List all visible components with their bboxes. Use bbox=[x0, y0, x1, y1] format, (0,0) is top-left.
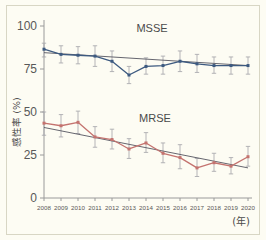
x-axis-unit-label: (年) bbox=[232, 215, 250, 227]
data-point[interactable] bbox=[196, 62, 199, 65]
data-point[interactable] bbox=[213, 161, 216, 164]
y-tick-label: 25 bbox=[24, 148, 38, 162]
data-point[interactable] bbox=[128, 74, 131, 77]
data-point[interactable] bbox=[247, 155, 250, 158]
data-point[interactable] bbox=[213, 64, 216, 67]
data-point[interactable] bbox=[145, 141, 148, 144]
data-point[interactable] bbox=[128, 147, 131, 150]
x-tick-label: 2009 bbox=[54, 204, 68, 211]
x-tick-label: 2017 bbox=[190, 204, 204, 211]
x-tick-label: 2016 bbox=[173, 204, 187, 211]
x-tick-label: 2015 bbox=[156, 204, 170, 211]
data-point[interactable] bbox=[230, 165, 233, 168]
data-point[interactable] bbox=[145, 65, 148, 68]
x-tick-label: 2008 bbox=[37, 204, 51, 211]
data-point[interactable] bbox=[247, 64, 250, 67]
y-axis-title: 感性率 (%) bbox=[11, 97, 22, 146]
data-point[interactable] bbox=[94, 55, 97, 58]
data-point[interactable] bbox=[162, 152, 165, 155]
data-point[interactable] bbox=[179, 60, 182, 63]
y-tick-label: 75 bbox=[24, 62, 38, 76]
data-point[interactable] bbox=[43, 122, 46, 125]
data-point[interactable] bbox=[179, 156, 182, 159]
y-tick-label: 100 bbox=[17, 19, 37, 33]
plot-area: 0255075100200820092010201120122013201420… bbox=[0, 0, 266, 240]
data-point[interactable] bbox=[111, 138, 114, 141]
x-tick-label: 2019 bbox=[224, 204, 238, 211]
data-point[interactable] bbox=[43, 48, 46, 51]
data-point[interactable] bbox=[111, 60, 114, 63]
y-tick-label: 50 bbox=[24, 105, 38, 119]
data-point[interactable] bbox=[230, 64, 233, 67]
y-tick-label: 0 bbox=[30, 191, 37, 205]
series-label-msse: MSSE bbox=[136, 22, 167, 34]
x-axis-ticks: 2008200920102011201220132014201520162017… bbox=[37, 198, 255, 211]
x-tick-label: 2018 bbox=[207, 204, 221, 211]
data-point[interactable] bbox=[162, 64, 165, 67]
data-point[interactable] bbox=[196, 166, 199, 169]
axes-group bbox=[44, 20, 252, 198]
x-tick-label: 2020 bbox=[241, 204, 255, 211]
x-tick-label: 2010 bbox=[71, 204, 85, 211]
data-point[interactable] bbox=[77, 54, 80, 57]
data-point[interactable] bbox=[77, 121, 80, 124]
data-point[interactable] bbox=[60, 53, 63, 56]
series-label-mrse: MRSE bbox=[139, 112, 171, 124]
x-tick-label: 2013 bbox=[122, 204, 136, 211]
line-chart: 0255075100200820092010201120122013201420… bbox=[0, 0, 266, 240]
x-tick-label: 2011 bbox=[88, 204, 102, 211]
data-point[interactable] bbox=[60, 124, 63, 127]
x-tick-label: 2014 bbox=[139, 204, 153, 211]
data-point[interactable] bbox=[94, 135, 97, 138]
x-tick-label: 2012 bbox=[105, 204, 119, 211]
series-msse bbox=[42, 43, 250, 83]
chart-figure: 0255075100200820092010201120122013201420… bbox=[0, 0, 266, 240]
